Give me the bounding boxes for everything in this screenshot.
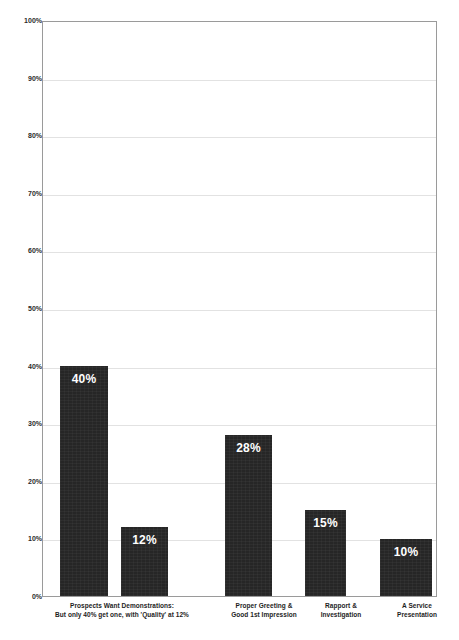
- category-label-rapport-investigation: Rapport & Investigation: [300, 601, 382, 619]
- y-tick-30: 30%: [8, 420, 42, 428]
- plot-area: 40% 12% 28% 15% 10%: [42, 21, 437, 597]
- category-line-1: Rapport &: [300, 601, 382, 610]
- bar-value-label: 12%: [121, 533, 168, 547]
- bar-value-label: 28%: [225, 441, 272, 455]
- y-tick-40: 40%: [8, 363, 42, 371]
- bar-proper-greeting[interactable]: 28%: [225, 435, 272, 596]
- category-line-2: But only 40% get one, with 'Quality' at …: [22, 610, 222, 619]
- bar-rapport-investigation[interactable]: 15%: [305, 510, 346, 596]
- y-tick-50: 50%: [8, 305, 42, 313]
- y-tick-90: 90%: [8, 75, 42, 83]
- y-tick-70: 70%: [8, 190, 42, 198]
- category-line-2: Investigation: [300, 610, 382, 619]
- bar-value-label: 15%: [305, 516, 346, 530]
- gridline-60: [43, 252, 436, 253]
- y-tick-0: 0%: [8, 593, 42, 601]
- category-line-2: Presentation: [379, 610, 455, 619]
- gridline-50: [43, 310, 436, 311]
- bar-service-presentation[interactable]: 10%: [380, 539, 432, 596]
- bar-chart: 100% 90% 80% 70% 60% 50% 40% 30% 20% 10%…: [0, 0, 459, 640]
- y-tick-100: 100%: [8, 17, 42, 25]
- category-label-prospects-want-demonstrations: Prospects Want Demonstrations: But only …: [22, 601, 222, 619]
- y-tick-10: 10%: [8, 535, 42, 543]
- y-tick-80: 80%: [8, 132, 42, 140]
- category-line-1: Prospects Want Demonstrations:: [22, 601, 222, 610]
- bar-quality-demos[interactable]: 12%: [121, 527, 168, 596]
- gridline-80: [43, 137, 436, 138]
- bar-value-label: 10%: [380, 545, 432, 559]
- gridline-70: [43, 195, 436, 196]
- bar-value-label: 40%: [60, 372, 108, 386]
- category-label-service-presentation: A Service Presentation: [379, 601, 455, 619]
- bar-prospects-want-demos[interactable]: 40%: [60, 366, 108, 596]
- gridline-90: [43, 80, 436, 81]
- y-tick-60: 60%: [8, 247, 42, 255]
- category-line-1: A Service: [379, 601, 455, 610]
- y-tick-20: 20%: [8, 478, 42, 486]
